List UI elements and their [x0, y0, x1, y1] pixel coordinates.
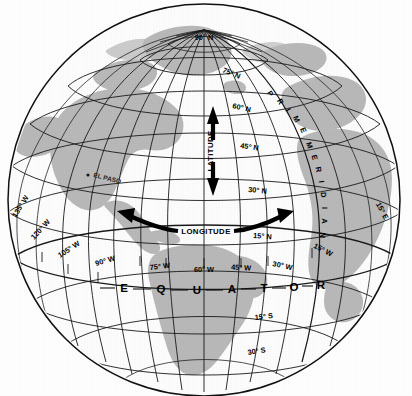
- latitude-label: LATITUDE: [206, 130, 215, 171]
- label-lon-60w: 60° W: [194, 265, 214, 274]
- label-lon-45w: 45° W: [231, 262, 252, 272]
- prime-meridian-letter-10: I: [320, 207, 329, 209]
- equator-letter-4: T: [260, 282, 267, 294]
- equator-letter-6: R: [317, 279, 326, 291]
- el-paso-dot: [86, 173, 89, 176]
- equator-letter-5: O: [290, 281, 299, 293]
- equator-letter-1: Q: [157, 283, 166, 295]
- label-lat-30n: 30° N: [248, 185, 267, 196]
- label-lat-15s: 15° S: [254, 311, 273, 322]
- globe-svg: 90° N 75° N 60° N 45° N 30° N 15° N 15° …: [0, 0, 412, 396]
- equator-letter-2: U: [193, 284, 201, 296]
- prime-meridian-letter-12: N: [318, 232, 327, 238]
- longitude-label: LONGITUDE: [181, 227, 231, 236]
- equator-letter-3: A: [228, 283, 236, 295]
- label-lat-90n: 90° N: [195, 33, 214, 42]
- globe-figure: 90° N 75° N 60° N 45° N 30° N 15° N 15° …: [0, 0, 412, 396]
- equator-letter-0: E: [120, 282, 128, 294]
- label-lat-15n: 15° N: [253, 231, 272, 241]
- prime-meridian-letter-11: A: [320, 218, 329, 224]
